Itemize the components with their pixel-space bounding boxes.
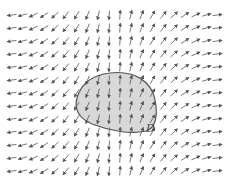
field-arrow xyxy=(140,167,143,175)
field-arrow xyxy=(30,169,38,173)
field-arrow xyxy=(75,141,80,149)
field-arrow xyxy=(86,141,89,149)
field-arrow xyxy=(213,105,222,106)
field-arrow xyxy=(8,144,17,145)
field-arrow xyxy=(171,64,178,70)
field-arrow xyxy=(192,78,200,82)
field-arrow xyxy=(171,77,178,83)
field-arrow xyxy=(213,144,222,145)
field-arrow xyxy=(63,25,69,32)
field-arrow xyxy=(130,37,132,46)
field-arrow xyxy=(8,131,17,132)
field-arrow xyxy=(192,52,200,56)
field-arrow xyxy=(192,13,200,17)
field-arrow xyxy=(30,26,38,30)
field-arrow xyxy=(150,141,155,149)
field-arrow xyxy=(160,103,166,110)
field-arrow xyxy=(160,25,166,32)
field-arrow xyxy=(160,90,166,97)
field-arrow xyxy=(41,156,49,161)
field-arrow xyxy=(41,130,49,135)
field-arrow xyxy=(202,92,211,94)
field-arrow xyxy=(213,53,222,54)
field-arrow xyxy=(8,157,17,158)
field-arrow xyxy=(171,103,178,109)
field-arrow xyxy=(181,130,189,135)
field-arrow xyxy=(109,24,110,33)
field-arrow xyxy=(97,11,99,20)
field-arrow xyxy=(160,64,166,71)
field-arrow xyxy=(171,142,178,148)
field-arrow xyxy=(63,168,69,175)
field-arrow xyxy=(150,63,155,71)
field-arrow xyxy=(86,128,89,136)
field-arrow xyxy=(202,131,211,133)
region-label: D xyxy=(146,122,155,135)
field-arrow xyxy=(202,105,211,107)
field-arrow xyxy=(52,155,59,161)
field-arrow xyxy=(181,52,189,57)
field-arrow xyxy=(192,104,200,108)
field-arrow xyxy=(19,14,28,16)
field-arrow xyxy=(150,50,155,58)
field-arrow xyxy=(75,37,80,45)
field-arrow xyxy=(140,63,143,71)
field-arrow xyxy=(192,39,200,43)
field-arrow xyxy=(75,167,80,175)
field-arrow xyxy=(63,64,69,71)
field-arrow xyxy=(52,51,59,57)
field-arrow xyxy=(8,14,17,15)
field-arrow xyxy=(30,39,38,43)
field-arrow xyxy=(97,37,99,46)
field-arrow xyxy=(19,144,28,146)
field-arrow xyxy=(109,141,110,150)
field-arrow xyxy=(19,79,28,81)
field-arrow xyxy=(63,51,69,58)
field-arrow xyxy=(30,104,38,108)
field-arrow xyxy=(171,168,178,174)
field-arrow xyxy=(150,167,155,175)
field-arrow xyxy=(130,24,132,33)
field-arrow xyxy=(171,25,178,31)
field-arrow xyxy=(140,11,143,19)
field-arrow xyxy=(213,92,222,93)
field-arrow xyxy=(120,37,121,46)
field-arrow xyxy=(41,52,49,57)
field-arrow xyxy=(19,66,28,68)
field-arrow xyxy=(75,63,80,71)
field-arrow xyxy=(52,129,59,135)
field-arrow xyxy=(150,11,155,19)
field-arrow xyxy=(130,141,132,150)
field-arrow xyxy=(109,154,110,163)
field-arrow xyxy=(160,129,166,136)
field-arrow xyxy=(202,14,211,16)
field-arrow xyxy=(181,156,189,161)
field-arrow xyxy=(160,51,166,58)
field-arrow xyxy=(8,27,17,28)
field-arrow xyxy=(8,66,17,67)
field-arrow xyxy=(160,77,166,84)
field-arrow xyxy=(192,143,200,147)
field-arrow xyxy=(140,154,143,162)
field-arrow xyxy=(120,141,121,150)
field-arrow xyxy=(130,11,132,20)
field-arrow xyxy=(140,141,143,149)
field-arrow xyxy=(63,90,69,97)
field-arrow xyxy=(181,117,189,122)
field-arrow xyxy=(19,170,28,172)
field-arrow xyxy=(41,78,49,83)
field-arrow xyxy=(140,24,143,32)
field-arrow xyxy=(109,11,110,20)
field-arrow xyxy=(8,40,17,41)
field-arrow xyxy=(130,154,132,163)
field-arrow xyxy=(192,117,200,121)
field-arrow xyxy=(41,104,49,109)
field-arrow xyxy=(97,154,99,163)
field-arrow xyxy=(120,63,121,72)
field-arrow xyxy=(30,143,38,147)
vector-field-figure xyxy=(0,0,225,194)
field-arrow xyxy=(41,91,49,96)
field-arrow xyxy=(202,66,211,68)
field-arrow xyxy=(52,64,59,70)
field-arrow xyxy=(171,38,178,44)
